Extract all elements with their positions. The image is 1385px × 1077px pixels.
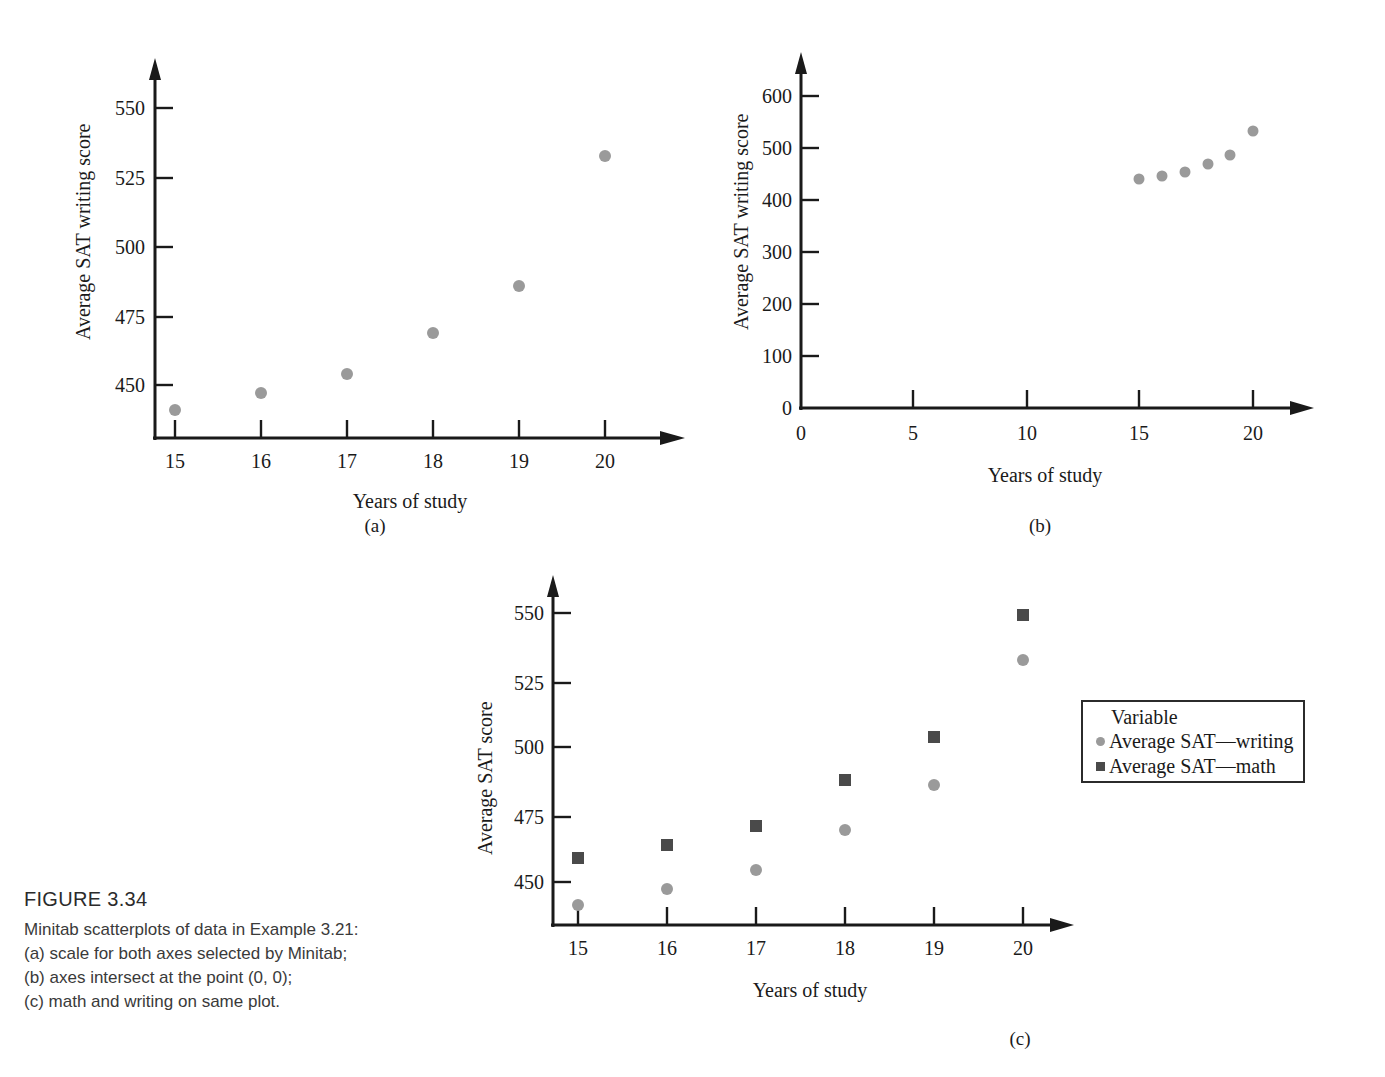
xtick-18: 18: [835, 937, 855, 959]
xtick-19: 19: [509, 450, 529, 472]
panel-c-xlabel: Years of study: [753, 979, 868, 1002]
figure-number: FIGURE 3.34: [24, 888, 444, 911]
panel-a-xticks: [175, 420, 605, 438]
legend-title: Variable: [1111, 707, 1303, 727]
ytick-0: 0: [782, 397, 792, 419]
data-point: [1017, 654, 1029, 666]
panel-a-series-writing: [169, 150, 611, 416]
circle-marker-icon: [1091, 737, 1109, 746]
data-point: [513, 280, 525, 292]
ytick-500: 500: [514, 736, 544, 758]
data-point: [1017, 609, 1029, 621]
panel-c-yticklabels: 550 525 500 475 450: [514, 602, 544, 893]
ytick-475: 475: [514, 806, 544, 828]
panel-b-axes: [795, 52, 1314, 415]
panel-b-letter: (b): [1020, 515, 1060, 537]
ytick-550: 550: [514, 602, 544, 624]
xtick-15: 15: [568, 937, 588, 959]
legend-label-math: Average SAT—math: [1109, 756, 1276, 777]
panel-b-series-writing: [1134, 126, 1259, 185]
panel-b-xlabel: Years of study: [988, 464, 1103, 487]
panel-b-ylabel: Average SAT writing score: [730, 113, 753, 330]
panel-a-letter: (a): [355, 515, 395, 537]
panel-b-yticklabels: 600 500 400 300 200 100 0: [762, 85, 792, 419]
ytick-525: 525: [115, 167, 145, 189]
panel-b-xticklabels: 0 5 10 15 20: [796, 422, 1263, 444]
xtick-20: 20: [1243, 422, 1263, 444]
ytick-475: 475: [115, 306, 145, 328]
data-point: [661, 883, 673, 895]
ytick-300: 300: [762, 241, 792, 263]
panel-c-yticks: [553, 613, 571, 882]
panel-c-xticklabels: 15 16 17 18 19 20: [568, 937, 1033, 959]
data-point: [1203, 159, 1214, 170]
xtick-15: 15: [165, 450, 185, 472]
figure-caption: FIGURE 3.34 Minitab scatterplots of data…: [24, 888, 444, 1015]
ytick-550: 550: [115, 97, 145, 119]
panel-a-xticklabels: 15 16 17 18 19 20: [165, 450, 615, 472]
panel-b: Average SAT writing score 600 500 400 30…: [700, 40, 1360, 520]
data-point: [169, 404, 181, 416]
legend-label-writing: Average SAT—writing: [1109, 731, 1294, 752]
panel-c-letter: (c): [1000, 1028, 1040, 1050]
ytick-500: 500: [762, 137, 792, 159]
caption-line-1: (a) scale for both axes selected by Mini…: [24, 942, 444, 966]
square-marker-icon: [1091, 762, 1109, 771]
caption-line-2: (b) axes intersect at the point (0, 0);: [24, 966, 444, 990]
caption-line-0: Minitab scatterplots of data in Example …: [24, 918, 444, 942]
xtick-10: 10: [1017, 422, 1037, 444]
data-point: [928, 731, 940, 743]
panel-a-axes: [149, 58, 685, 445]
xtick-18: 18: [423, 450, 443, 472]
panel-a-ylabel: Average SAT writing score: [72, 123, 95, 340]
data-point: [839, 774, 851, 786]
panel-a-yticklabels: 550 525 500 475 450: [115, 97, 145, 396]
panel-b-xticks: [913, 390, 1253, 408]
ytick-400: 400: [762, 189, 792, 211]
xtick-16: 16: [251, 450, 271, 472]
xtick-15: 15: [1129, 422, 1149, 444]
ytick-450: 450: [115, 374, 145, 396]
ytick-200: 200: [762, 293, 792, 315]
xtick-5: 5: [908, 422, 918, 444]
data-point: [1225, 150, 1236, 161]
xtick-20: 20: [595, 450, 615, 472]
data-point: [572, 852, 584, 864]
ytick-525: 525: [514, 672, 544, 694]
data-point: [341, 368, 353, 380]
panel-c-xticks: [578, 907, 1023, 925]
legend-item-writing: Average SAT—writing: [1091, 731, 1303, 752]
panel-c-ylabel: Average SAT score: [474, 701, 497, 855]
ytick-600: 600: [762, 85, 792, 107]
panel-a-yticks: [155, 108, 173, 385]
panel-c-series-math: [572, 609, 1029, 864]
data-point: [427, 327, 439, 339]
panel-a-xlabel: Years of study: [353, 490, 468, 513]
ytick-500: 500: [115, 236, 145, 258]
data-point: [839, 824, 851, 836]
ytick-100: 100: [762, 345, 792, 367]
panel-b-plot: Average SAT writing score 600 500 400 30…: [700, 40, 1360, 520]
data-point: [1180, 167, 1191, 178]
data-point: [572, 899, 584, 911]
panel-c: Average SAT score 550 525 500 475 450: [450, 555, 1090, 1035]
panel-a-plot: Average SAT writing score 550 525 500 47…: [40, 40, 720, 520]
panel-c-series-writing: [572, 654, 1029, 911]
data-point: [1134, 174, 1145, 185]
xtick-0: 0: [796, 422, 806, 444]
caption-line-3: (c) math and writing on same plot.: [24, 990, 444, 1014]
data-point: [928, 779, 940, 791]
xtick-19: 19: [924, 937, 944, 959]
xtick-20: 20: [1013, 937, 1033, 959]
legend: Variable Average SAT—writing Average SAT…: [1081, 700, 1305, 783]
panel-c-axes: [547, 575, 1074, 932]
data-point: [1248, 126, 1259, 137]
panel-b-yticks: [801, 96, 819, 356]
ytick-450: 450: [514, 871, 544, 893]
xtick-17: 17: [746, 937, 766, 959]
data-point: [599, 150, 611, 162]
data-point: [1157, 171, 1168, 182]
panel-a: Average SAT writing score 550 525 500 47…: [40, 40, 720, 520]
data-point: [750, 864, 762, 876]
data-point: [255, 387, 267, 399]
